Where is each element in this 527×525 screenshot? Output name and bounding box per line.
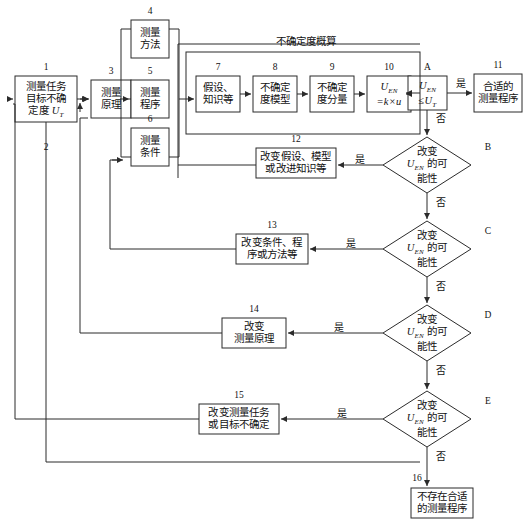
node-rect-8 [253,76,297,112]
node-rect-13 [236,234,308,264]
node-rect-11 [474,74,522,112]
edge-13-feedback [110,160,236,249]
node-diamond-B [383,137,471,193]
node-rect-14 [222,318,286,348]
node-rect-15 [199,404,279,434]
node-rect-1 [15,76,77,122]
node-rect-6 [131,128,169,166]
node-diamond-D [383,305,471,361]
flowchart-diagram: 不确定度概算 1 3 4 5 6 7 8 9 10 A 11 12 13 14 … [0,0,527,525]
node-rect-16 [411,488,473,518]
node-rect-9 [310,76,354,112]
node-rect-4 [131,20,169,58]
node-rect-10 [367,76,411,112]
node-rect-7 [196,76,240,112]
node-rect-5 [131,80,169,118]
node-rect-12 [256,148,336,178]
edge-15-feedback [13,104,199,419]
node-diamond-E [383,391,471,447]
node-diamond-C [383,221,471,277]
diagram-canvas [0,0,527,525]
